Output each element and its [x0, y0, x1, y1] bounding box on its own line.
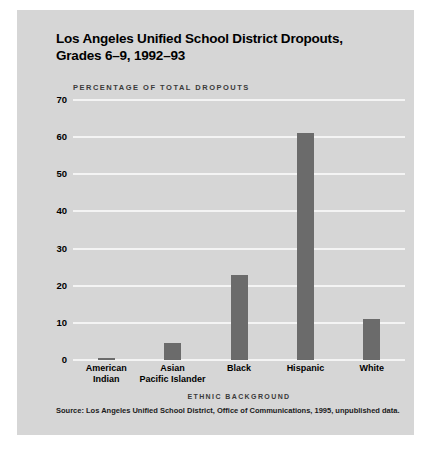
chart-title: Los Angeles Unified School District Drop…	[56, 30, 386, 64]
x-axis-category-line: Hispanic	[272, 363, 338, 374]
y-axis-tick-label: 30	[56, 247, 67, 249]
x-axis-category-line: Black	[206, 363, 272, 374]
y-axis-tick: 60	[73, 136, 405, 138]
x-axis-title: ETHNIC BACKGROUND	[73, 393, 405, 400]
bar	[164, 343, 181, 360]
bar	[297, 133, 314, 360]
plot-area: 706050403020100 AmericanIndianAsianPacif…	[73, 100, 405, 360]
y-axis-tick-label: 40	[56, 210, 67, 212]
gridline	[73, 248, 405, 250]
y-axis-tick-label: 70	[56, 99, 67, 101]
bar	[98, 358, 115, 360]
chart-subtitle: PERCENTAGE OF TOTAL DROPOUTS	[73, 83, 250, 92]
x-axis-category-line: Indian	[73, 374, 139, 385]
y-axis-tick: 40	[73, 210, 405, 212]
gridline	[73, 173, 405, 175]
gridline	[73, 210, 405, 212]
x-axis-category-line: White	[339, 363, 405, 374]
gridline	[73, 99, 405, 101]
y-axis-tick-label: 0	[62, 359, 67, 361]
y-axis-tick-label: 60	[56, 136, 67, 138]
bar	[231, 275, 248, 360]
chart-card: Los Angeles Unified School District Drop…	[17, 10, 414, 435]
x-axis-category-label: Black	[206, 363, 272, 374]
source-note: Source: Los Angeles Unified School Distr…	[56, 406, 400, 415]
x-axis-category-label: AmericanIndian	[73, 363, 139, 385]
y-axis-tick-label: 10	[56, 321, 67, 323]
x-axis-category-line: American	[73, 363, 139, 374]
x-axis-category-label: Hispanic	[272, 363, 338, 374]
y-axis-tick: 50	[73, 173, 405, 175]
y-axis-tick: 70	[73, 99, 405, 101]
gridline	[73, 136, 405, 138]
y-axis-tick-label: 50	[56, 173, 67, 175]
bar	[363, 319, 380, 360]
x-axis-category-label: White	[339, 363, 405, 374]
chart-title-line-1: Los Angeles Unified School District Drop…	[56, 30, 386, 47]
x-axis-category-line: Pacific Islander	[139, 374, 205, 385]
y-axis-tick-label: 20	[56, 284, 67, 286]
chart-title-line-2: Grades 6–9, 1992–93	[56, 47, 386, 64]
y-axis-tick: 30	[73, 248, 405, 250]
x-axis-category-line: Asian	[139, 363, 205, 374]
x-axis-category-label: AsianPacific Islander	[139, 363, 205, 385]
